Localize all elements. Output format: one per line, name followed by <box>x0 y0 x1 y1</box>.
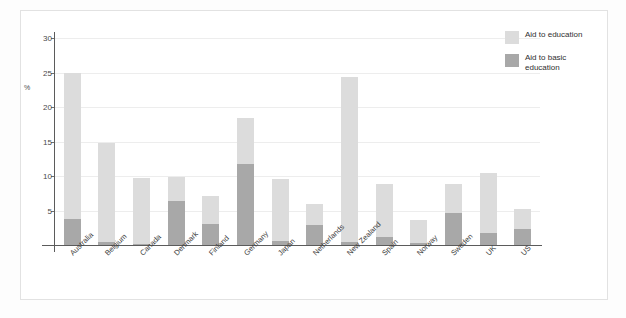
bar-segment-aid-to-education <box>98 143 115 242</box>
bar-segment-aid-to-education <box>341 77 358 243</box>
bar-segment-aid-to-education <box>480 173 497 233</box>
bar-segment-aid-to-basic-education <box>168 201 185 245</box>
bar-column <box>341 77 358 245</box>
bar-segment-aid-to-education <box>306 204 323 225</box>
x-axis-origin-tick <box>54 245 55 252</box>
bar-segment-aid-to-basic-education <box>514 229 531 245</box>
bar-segment-aid-to-education <box>272 179 289 241</box>
y-axis-tick-label: 10 <box>30 172 52 181</box>
chart-legend: Aid to educationAid to basic education <box>505 30 601 82</box>
y-axis-tick-label: 30 <box>30 34 52 43</box>
bar-column <box>480 173 497 245</box>
y-axis-tick-label: 5 <box>30 206 52 215</box>
bar-segment-aid-to-basic-education <box>480 233 497 245</box>
bar-column <box>168 177 185 245</box>
bar-column <box>272 179 289 245</box>
bar-segment-aid-to-education <box>64 73 81 219</box>
y-axis-tick-label: 15 <box>30 137 52 146</box>
y-axis-ticks: 51015202530 <box>26 0 52 318</box>
legend-item: Aid to education <box>505 30 601 44</box>
legend-label: Aid to basic education <box>525 53 601 73</box>
bar-segment-aid-to-education <box>202 196 219 224</box>
bar-column <box>64 73 81 245</box>
bar-column <box>98 143 115 245</box>
legend-swatch <box>505 54 519 67</box>
bar-column <box>445 184 462 245</box>
bar-segment-aid-to-education <box>237 118 254 164</box>
bar-segment-aid-to-basic-education <box>237 164 254 245</box>
bar-segment-aid-to-education <box>445 184 462 214</box>
bar-column <box>133 178 150 245</box>
legend-swatch <box>505 31 519 44</box>
bar-column <box>202 196 219 245</box>
plot-area <box>55 38 540 245</box>
bar-segment-aid-to-education <box>168 177 185 200</box>
bar-column <box>306 204 323 245</box>
bar-segment-aid-to-education <box>514 209 531 229</box>
y-axis-tick-label: 20 <box>30 103 52 112</box>
bar-segment-aid-to-education <box>133 178 150 244</box>
y-axis-tick-label: 25 <box>30 68 52 77</box>
chart-figure: % 51015202530 AustraliaBelgiumCanadaDenm… <box>0 0 626 318</box>
legend-label: Aid to education <box>525 30 582 40</box>
bar-column <box>514 209 531 245</box>
bar-column <box>237 118 254 245</box>
legend-item: Aid to basic education <box>505 53 601 73</box>
bar-column <box>376 184 393 245</box>
